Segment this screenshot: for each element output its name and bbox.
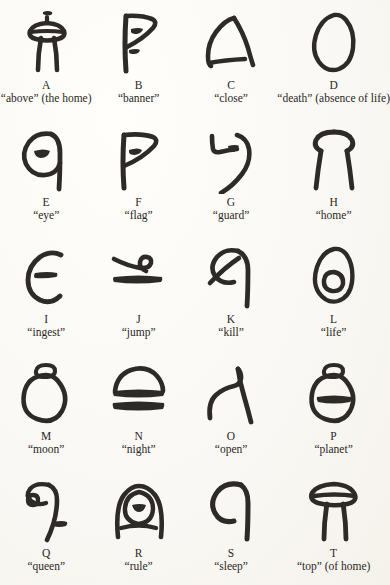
glyph-cell-t: T “top” (of home) xyxy=(277,468,390,585)
flag-on-pole-glyph xyxy=(96,123,182,195)
hook-with-dot-glyph xyxy=(188,123,274,195)
glyph-gloss: “top” (of home) xyxy=(297,560,370,573)
glyph-caption: R “rule” xyxy=(125,547,153,573)
glyph-gloss: “eye” xyxy=(33,209,59,222)
glyph-letter: I xyxy=(27,313,65,326)
glyph-caption: A “above” (the home) xyxy=(1,79,92,105)
open-loop-with-tail-glyph xyxy=(188,474,274,546)
glyph-letter: H xyxy=(316,196,352,209)
glyph-letter: J xyxy=(122,313,156,326)
glyph-gloss: “night” xyxy=(122,443,156,456)
glyph-cell-j: J “jump” xyxy=(92,234,184,351)
glyph-gloss: “kill” xyxy=(218,326,244,339)
glyph-cell-o: O “open” xyxy=(185,351,277,468)
glyph-gloss: “flag” xyxy=(125,209,153,222)
glyph-gloss: “banner” xyxy=(118,92,160,105)
glyph-letter: B xyxy=(118,79,160,92)
glyph-cell-m: M “moon” xyxy=(0,351,92,468)
glyph-gloss: “open” xyxy=(215,443,248,456)
hooked-oval-struck-through-glyph xyxy=(188,240,274,312)
glyph-letter: T xyxy=(297,547,370,560)
glyph-caption: H “home” xyxy=(316,196,352,222)
glyph-letter: S xyxy=(214,547,248,560)
glyph-gloss: “sleep” xyxy=(214,560,248,573)
glyph-cell-i: I “ingest” xyxy=(0,234,92,351)
empty-egg-glyph xyxy=(291,6,377,78)
glyph-caption: Q “queen” xyxy=(27,547,65,573)
glyph-cell-b: B “banner” xyxy=(92,0,184,117)
glyph-cell-f: F “flag” xyxy=(92,117,184,234)
glyph-cell-q: Q “queen” xyxy=(0,468,92,585)
dome-over-bar-glyph xyxy=(96,357,182,429)
glyph-caption: N “night” xyxy=(122,430,156,456)
glyph-caption: J “jump” xyxy=(122,313,156,339)
glyph-letter: F xyxy=(125,196,153,209)
glyph-cell-g: G “guard” xyxy=(185,117,277,234)
glyph-letter: P xyxy=(314,430,352,443)
glyph-gloss: “rule” xyxy=(125,560,153,573)
glyph-letter: M xyxy=(28,430,64,443)
glyph-letter: G xyxy=(213,196,249,209)
glyph-gloss: “home” xyxy=(316,209,352,222)
glyph-cell-l: L “life” xyxy=(277,234,390,351)
hook-with-ring-and-dash-glyph xyxy=(3,474,89,546)
glyph-cell-h: H “home” xyxy=(277,117,390,234)
capped-dome-with-legs-glyph xyxy=(291,474,377,546)
glyph-letter: R xyxy=(125,547,153,560)
glyph-gloss: “life” xyxy=(321,326,347,339)
glyph-caption: L “life” xyxy=(321,313,347,339)
glyph-gloss: “queen” xyxy=(27,560,65,573)
loop-over-bar-glyph xyxy=(96,240,182,312)
glyph-caption: S “sleep” xyxy=(214,547,248,573)
glyph-letter: K xyxy=(218,313,244,326)
glyph-letter: C xyxy=(214,79,248,92)
egg-with-inner-circle-glyph xyxy=(291,240,377,312)
glyph-cell-k: K “kill” xyxy=(185,234,277,351)
glyph-cell-s: S “sleep” xyxy=(185,468,277,585)
glyph-caption: B “banner” xyxy=(118,79,160,105)
glyph-grid: A “above” (the home) B “banner” xyxy=(0,0,390,585)
angled-peak-glyph xyxy=(188,6,274,78)
circle-with-small-circle-above-glyph xyxy=(3,357,89,429)
glyph-caption: M “moon” xyxy=(28,430,64,456)
glyph-gloss: “guard” xyxy=(213,209,249,222)
glyph-caption: F “flag” xyxy=(125,196,153,222)
arch-with-inner-oval-glyph xyxy=(96,474,182,546)
glyph-letter: A xyxy=(1,79,92,92)
glyph-caption: E “eye” xyxy=(33,196,59,222)
curved-hook-and-stroke-glyph xyxy=(188,357,274,429)
glyph-letter: L xyxy=(321,313,347,326)
glyph-gloss: “above” (the home) xyxy=(1,92,92,105)
glyph-letter: O xyxy=(215,430,248,443)
glyph-chart-sheet: A “above” (the home) B “banner” xyxy=(0,0,390,585)
glyph-gloss: “planet” xyxy=(314,443,352,456)
glyph-caption: O “open” xyxy=(215,430,248,456)
oval-with-lid-and-tail-glyph xyxy=(3,123,89,195)
glyph-caption: G “guard” xyxy=(213,196,249,222)
glyph-cell-d: D “death” (absence of life) xyxy=(277,0,390,117)
glyph-cell-r: R “rule” xyxy=(92,468,184,585)
circle-with-bar-and-cap-glyph xyxy=(291,357,377,429)
glyph-caption: I “ingest” xyxy=(27,313,65,339)
bulb-with-legs-and-dot-glyph xyxy=(3,6,89,78)
glyph-caption: D “death” (absence of life) xyxy=(277,79,390,105)
glyph-gloss: “moon” xyxy=(28,443,64,456)
glyph-cell-a: A “above” (the home) xyxy=(0,0,92,117)
glyph-caption: C “close” xyxy=(214,79,248,105)
glyph-gloss: “jump” xyxy=(122,326,156,339)
glyph-cell-c: C “close” xyxy=(185,0,277,117)
glyph-caption: P “planet” xyxy=(314,430,352,456)
glyph-gloss: “death” (absence of life) xyxy=(277,92,390,105)
glyph-caption: K “kill” xyxy=(218,313,244,339)
glyph-cell-e: E “eye” xyxy=(0,117,92,234)
glyph-cell-p: P “planet” xyxy=(277,351,390,468)
glyph-gloss: “ingest” xyxy=(27,326,65,339)
glyph-caption: T “top” (of home) xyxy=(297,547,370,573)
glyph-gloss: “close” xyxy=(214,92,248,105)
glyph-letter: N xyxy=(122,430,156,443)
dome-with-two-legs-glyph xyxy=(291,123,377,195)
glyph-cell-n: N “night” xyxy=(92,351,184,468)
glyph-letter: Q xyxy=(27,547,65,560)
open-c-with-bar-glyph xyxy=(3,240,89,312)
glyph-letter: E xyxy=(33,196,59,209)
